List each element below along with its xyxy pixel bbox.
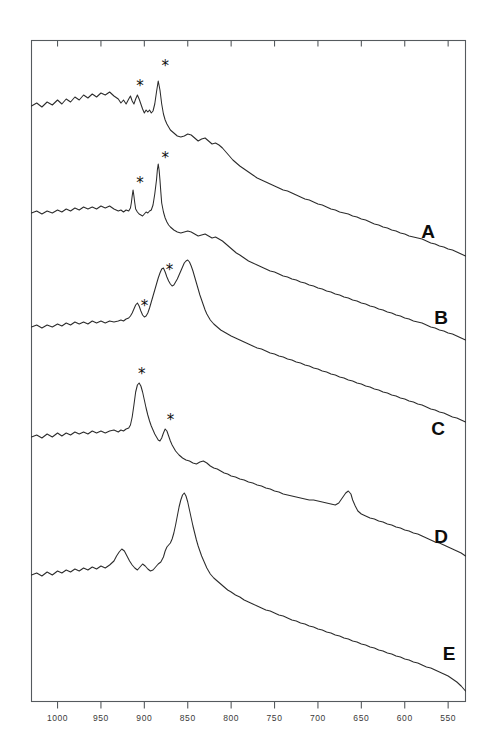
asterisk-marker: * — [141, 297, 149, 315]
spectra-plot: 1000950900850800750700650600550 ********… — [0, 0, 492, 739]
trace-label-B: B — [434, 307, 448, 328]
trace-label-C: C — [431, 418, 445, 439]
x-tick-label: 650 — [353, 713, 369, 723]
plot-background — [0, 0, 492, 739]
asterisk-marker: * — [166, 261, 174, 279]
asterisk-marker: * — [136, 174, 144, 192]
x-tick-label: 900 — [136, 713, 152, 723]
trace-label-A: A — [421, 221, 435, 242]
x-tick-label: 550 — [440, 713, 456, 723]
asterisk-marker: * — [167, 411, 175, 429]
x-tick-label: 950 — [93, 713, 109, 723]
asterisk-marker: * — [161, 57, 169, 75]
asterisk-marker: * — [136, 77, 144, 95]
x-tick-label: 800 — [223, 713, 239, 723]
trace-label-E: E — [443, 643, 456, 664]
x-tick-label: 700 — [310, 713, 326, 723]
trace-label-D: D — [434, 526, 448, 547]
x-tick-label: 750 — [267, 713, 283, 723]
x-tick-label: 600 — [397, 713, 413, 723]
asterisk-marker: * — [161, 149, 169, 167]
x-tick-label: 1000 — [47, 713, 68, 723]
spectra-figure: 1000950900850800750700650600550 ********… — [0, 0, 492, 739]
x-tick-label: 850 — [180, 713, 196, 723]
asterisk-marker: * — [138, 365, 146, 383]
